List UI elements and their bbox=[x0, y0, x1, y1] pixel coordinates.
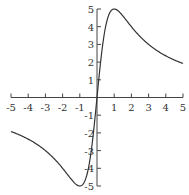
x-tick-label: 1 bbox=[111, 102, 117, 113]
x-tick-label: -1 bbox=[75, 102, 85, 113]
function-plot: -5-4-3-2-112345-5-4-3-2-112345 bbox=[0, 0, 189, 195]
y-tick-label: -3 bbox=[84, 146, 94, 157]
x-tick-label: -4 bbox=[23, 102, 33, 113]
y-tick-label: 1 bbox=[88, 75, 94, 86]
x-tick-label: 2 bbox=[128, 102, 134, 113]
x-tick-label: 4 bbox=[163, 102, 169, 113]
y-tick-label: -1 bbox=[84, 110, 94, 121]
x-tick-label: -5 bbox=[6, 102, 16, 113]
x-tick-label: 3 bbox=[145, 102, 151, 113]
y-tick-label: 3 bbox=[88, 39, 94, 50]
y-tick-label: 5 bbox=[88, 4, 94, 15]
x-tick-label: 5 bbox=[180, 102, 186, 113]
x-tick-label: -3 bbox=[41, 102, 51, 113]
x-tick-label: -2 bbox=[58, 102, 68, 113]
y-tick-label: 4 bbox=[88, 22, 94, 33]
y-tick-label: -5 bbox=[84, 181, 94, 192]
y-tick-label: 2 bbox=[88, 57, 94, 68]
